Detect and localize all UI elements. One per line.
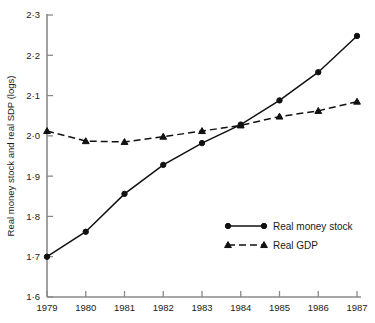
y-axis-tick-label: 1·9 [26,171,40,182]
x-axis-tick-label: 1979 [36,302,57,313]
legend-marker-end-0 [261,223,266,228]
x-axis-tick-label: 1983 [191,302,212,313]
legend-label-1: Real GDP [273,240,318,251]
y-axis-tick-label: 1·6 [26,291,40,302]
data-point-real-money-stock [354,33,359,38]
data-point-real-money-stock [83,229,88,234]
x-axis-tick-label: 1986 [308,302,329,313]
x-axis-tick-label: 1981 [114,302,135,313]
y-axis-tick-label: 2·0 [26,130,40,141]
chart-figure: 1·61·71·81·92·02·12·22·31979198019811982… [0,0,375,323]
line-chart: 1·61·71·81·92·02·12·22·31979198019811982… [0,0,375,323]
x-axis-tick-label: 1984 [230,302,251,313]
y-axis-tick-label: 2·2 [26,50,40,61]
x-axis-tick-label: 1982 [153,302,174,313]
data-point-real-money-stock [44,254,49,259]
data-point-real-money-stock [277,98,282,103]
data-point-real-money-stock [122,191,127,196]
x-axis-tick-label: 1980 [75,302,96,313]
y-axis-tick-label: 2·1 [26,90,40,101]
y-axis-tick-label: 1·8 [26,211,40,222]
x-axis-tick-label: 1987 [346,302,367,313]
data-point-real-gdp [276,113,283,119]
data-point-real-money-stock [161,162,166,167]
series-line-real-gdp [47,102,357,142]
x-axis-tick-label: 1985 [269,302,290,313]
data-point-real-money-stock [316,70,321,75]
data-point-real-gdp [354,98,361,104]
y-axis-title: Real money stock and real SDP (logs) [5,76,16,237]
data-point-real-gdp [44,128,51,134]
y-axis-tick-label: 2·3 [26,9,40,20]
data-point-real-money-stock [199,140,204,145]
legend-marker-0 [225,223,230,228]
legend-label-0: Real money stock [273,221,353,232]
y-axis-tick-label: 1·7 [26,251,40,262]
